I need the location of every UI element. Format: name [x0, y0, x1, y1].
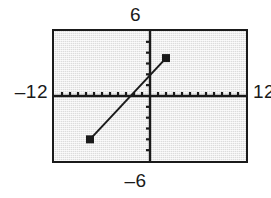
plot-svg: [54, 31, 246, 161]
graph-figure: 6 ‒12 12 ‒6: [0, 0, 271, 198]
segment-line: [90, 58, 166, 139]
line-segment-series: [86, 54, 170, 143]
segment-left-endpoint-marker: [86, 135, 94, 143]
segment-right-endpoint-marker: [162, 54, 170, 62]
axes-group: [54, 31, 246, 161]
x-min-label: ‒12: [4, 82, 48, 101]
plot-viewport: [52, 29, 248, 163]
y-max-label: 6: [0, 5, 271, 24]
y-min-label: ‒6: [0, 171, 271, 190]
x-max-label: 12: [253, 82, 271, 101]
